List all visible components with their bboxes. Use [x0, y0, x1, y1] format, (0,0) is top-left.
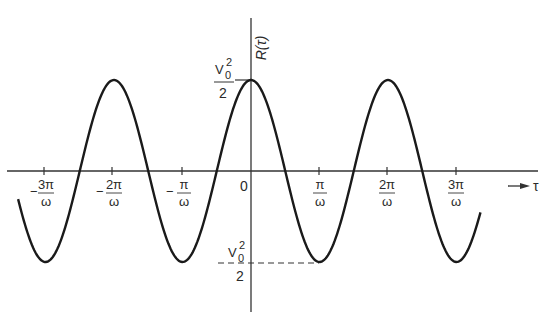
svg-text:2: 2: [239, 239, 245, 251]
svg-text:ω: ω: [179, 194, 189, 209]
tick-label-neg1: − π ω: [166, 177, 191, 209]
svg-text:ω: ω: [41, 194, 51, 209]
x-axis-arrow: [508, 183, 530, 189]
svg-text:−: −: [96, 184, 104, 199]
svg-text:2: 2: [226, 56, 232, 68]
y-axis-label: R(τ): [253, 36, 269, 61]
svg-text:V: V: [215, 62, 224, 77]
svg-text:V: V: [228, 245, 237, 260]
tick-label-zero: 0: [240, 178, 248, 194]
svg-text:0: 0: [238, 252, 244, 264]
svg-text:−: −: [30, 184, 38, 199]
svg-text:2π: 2π: [106, 177, 122, 192]
peak-value-label: V 2 0 2: [214, 56, 234, 101]
svg-text:3π: 3π: [38, 177, 54, 192]
svg-text:ω: ω: [315, 194, 325, 209]
trough-value-label: V 2 0 2: [228, 239, 245, 284]
svg-text:π: π: [180, 177, 189, 192]
tick-label-pos1: π ω: [313, 177, 327, 209]
autocorrelation-chart: R(τ) V 2 0 2 V 2 0 2 − 3π ω − 2π ω − π ω…: [0, 0, 545, 318]
svg-text:3π: 3π: [448, 177, 464, 192]
svg-text:ω: ω: [382, 194, 392, 209]
svg-text:2: 2: [219, 85, 227, 101]
tick-label-neg2: − 2π ω: [96, 177, 122, 209]
svg-text:ω: ω: [109, 194, 119, 209]
svg-text:0: 0: [225, 69, 231, 81]
arrow-right-icon: [520, 183, 530, 189]
svg-text:2π: 2π: [379, 177, 395, 192]
tick-label-neg3: − 3π ω: [30, 177, 54, 209]
tick-label-pos3: 3π ω: [448, 177, 464, 209]
svg-text:−: −: [166, 184, 174, 199]
x-axis-label: τ: [533, 178, 539, 194]
svg-text:ω: ω: [451, 194, 461, 209]
svg-text:2: 2: [236, 268, 244, 284]
svg-text:π: π: [316, 177, 325, 192]
tick-label-pos2: 2π ω: [379, 177, 395, 209]
